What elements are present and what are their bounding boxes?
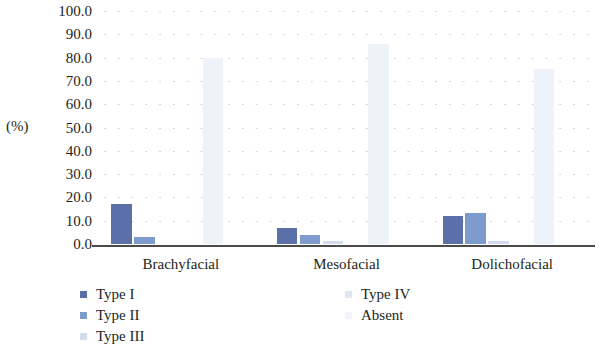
- y-axis-tick-label: 50.0: [36, 120, 92, 135]
- y-axis-tick-label: 90.0: [36, 27, 92, 42]
- bar-groups: [98, 11, 595, 244]
- y-axis-tick-label: 20.0: [36, 190, 92, 205]
- bar[interactable]: [203, 58, 223, 244]
- bar-slot: [300, 11, 320, 244]
- legend-swatch-icon: [345, 291, 352, 298]
- y-axis-tick-label: 30.0: [36, 167, 92, 182]
- bar-slot: [534, 11, 554, 244]
- legend-column-right: Type IVAbsent: [345, 285, 560, 346]
- bar[interactable]: [323, 241, 343, 244]
- bar[interactable]: [443, 216, 463, 244]
- y-axis-tick-labels: 100.090.080.070.060.050.040.030.020.010.…: [36, 0, 92, 250]
- y-axis-tick-label: 70.0: [36, 73, 92, 88]
- bar-slot: [488, 11, 508, 244]
- bar-chart: (%) 100.090.080.070.060.050.040.030.020.…: [0, 0, 613, 349]
- bar-slot: [180, 11, 200, 244]
- x-axis-category-label: Dolichofacial: [429, 255, 595, 273]
- legend-item[interactable]: Type II: [80, 306, 345, 325]
- bar[interactable]: [534, 69, 554, 244]
- bar-slot: [157, 11, 177, 244]
- y-axis-unit-label: (%): [6, 118, 29, 134]
- legend-item-label: Type I: [96, 286, 135, 303]
- legend-item[interactable]: Type I: [80, 285, 345, 304]
- legend-item[interactable]: Type III: [80, 327, 345, 346]
- bar[interactable]: [111, 204, 131, 244]
- legend-swatch-icon: [80, 312, 87, 319]
- bar-slot: [346, 11, 366, 244]
- y-axis-tick-label: 80.0: [36, 50, 92, 65]
- bar-slot: [277, 11, 297, 244]
- bar-slot: [511, 11, 531, 244]
- bar-slot: [203, 11, 223, 244]
- bar[interactable]: [465, 213, 485, 244]
- legend-item[interactable]: Absent: [345, 306, 560, 325]
- legend-item-label: Type IV: [361, 286, 410, 303]
- bar-group-bars: [264, 11, 430, 244]
- bar-slot: [368, 11, 388, 244]
- bar-group: [98, 11, 264, 244]
- legend-item-label: Absent: [361, 307, 404, 324]
- bar[interactable]: [488, 241, 508, 244]
- bar-group-bars: [429, 11, 595, 244]
- x-axis-category-label: Brachyfacial: [98, 255, 264, 273]
- legend-item-label: Type III: [96, 328, 145, 345]
- bar[interactable]: [368, 44, 388, 244]
- bar-slot: [443, 11, 463, 244]
- legend-swatch-icon: [345, 312, 352, 319]
- bar-slot: [465, 11, 485, 244]
- plot-area: [98, 11, 595, 244]
- chart-legend: Type IType IIType III Type IVAbsent: [80, 285, 560, 346]
- y-axis-tick-label: 40.0: [36, 143, 92, 158]
- bar[interactable]: [277, 228, 297, 244]
- legend-item[interactable]: Type IV: [345, 285, 560, 304]
- bar-group: [429, 11, 595, 244]
- x-axis-category-label: Mesofacial: [264, 255, 430, 273]
- legend-swatch-icon: [80, 291, 87, 298]
- bar-slot: [323, 11, 343, 244]
- bar-group: [264, 11, 430, 244]
- legend-column-left: Type IType IIType III: [80, 285, 345, 346]
- bar-group-bars: [98, 11, 264, 244]
- bar[interactable]: [134, 237, 154, 244]
- y-axis-tick-label: 100.0: [36, 4, 92, 19]
- x-axis-category-labels: BrachyfacialMesofacialDolichofacial: [98, 255, 595, 273]
- bar[interactable]: [300, 235, 320, 244]
- legend-swatch-icon: [80, 333, 87, 340]
- bar-slot: [111, 11, 131, 244]
- y-axis-tick-label: 60.0: [36, 97, 92, 112]
- y-axis-tick-label: 10.0: [36, 213, 92, 228]
- y-axis-tick-label: 0.0: [36, 237, 92, 252]
- x-axis-line: [92, 245, 595, 247]
- legend-item-label: Type II: [96, 307, 140, 324]
- bar-slot: [134, 11, 154, 244]
